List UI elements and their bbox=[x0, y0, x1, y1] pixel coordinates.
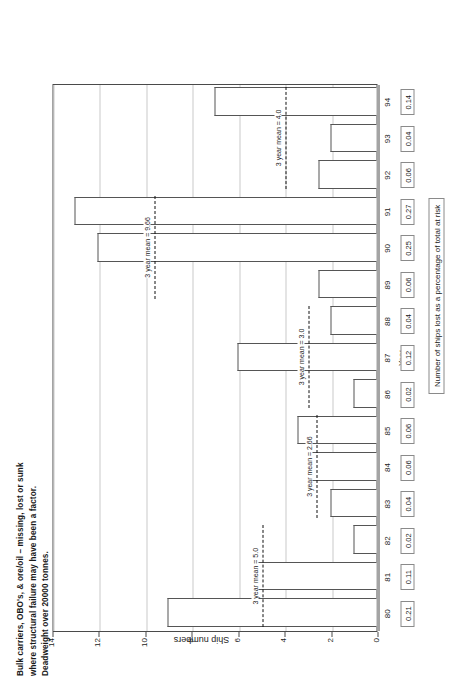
y-tick-12: 12 bbox=[92, 638, 101, 668]
chart-title-line-2: where structural failure may have been a… bbox=[27, 346, 40, 676]
x-tick-85: 85 bbox=[382, 416, 391, 446]
percent-box-85: 0.06 bbox=[400, 418, 414, 444]
x-tick-90: 90 bbox=[382, 233, 391, 263]
y-tick-mark bbox=[98, 632, 99, 637]
y-tick-mark bbox=[52, 632, 53, 637]
x-tick-81: 81 bbox=[382, 562, 391, 592]
bar-83 bbox=[330, 489, 376, 517]
bar-81 bbox=[253, 562, 376, 590]
gridline bbox=[99, 85, 100, 631]
x-tick-80: 80 bbox=[382, 599, 391, 629]
x-tick-88: 88 bbox=[382, 306, 391, 336]
mean-marker-4 bbox=[285, 87, 286, 189]
y-tick-14: 14 bbox=[46, 638, 55, 668]
bar-80 bbox=[167, 599, 376, 627]
percent-box-88: 0.04 bbox=[400, 308, 414, 334]
bar-86 bbox=[353, 379, 376, 407]
x-tick-83: 83 bbox=[382, 489, 391, 519]
mean-marker-2 bbox=[308, 306, 309, 408]
y-tick-mark bbox=[377, 632, 378, 637]
mean-label-3: 3 year mean = 9.66 bbox=[143, 216, 150, 279]
chart-canvas: Bulk carriers, OBO's, & ore/oil – missin… bbox=[0, 0, 465, 694]
percent-box-83: 0.04 bbox=[400, 491, 414, 517]
percent-box-93: 0.04 bbox=[400, 126, 414, 152]
y-tick-4: 4 bbox=[278, 638, 287, 668]
plot-area: 3 year mean = 5.03 year mean = 2.663 yea… bbox=[52, 84, 377, 632]
percent-box-92: 0.06 bbox=[400, 162, 414, 188]
bar-88 bbox=[330, 306, 376, 334]
x-tick-86: 86 bbox=[382, 380, 391, 410]
mean-label-2: 3 year mean = 3.0 bbox=[297, 328, 304, 387]
percent-box-89: 0.06 bbox=[400, 272, 414, 298]
percent-box-86: 0.02 bbox=[400, 382, 414, 408]
y-tick-2: 2 bbox=[325, 638, 334, 668]
percent-box-84: 0.06 bbox=[400, 455, 414, 481]
x-tick-92: 92 bbox=[382, 160, 391, 190]
bar-92 bbox=[318, 160, 376, 188]
bar-91 bbox=[74, 197, 376, 225]
mean-marker-1 bbox=[316, 415, 317, 517]
percent-box-87: 0.12 bbox=[400, 345, 414, 371]
x-tick-84: 84 bbox=[382, 453, 391, 483]
y-tick-mark bbox=[284, 632, 285, 637]
bar-82 bbox=[353, 525, 376, 553]
gridline bbox=[146, 85, 147, 631]
mean-marker-0 bbox=[262, 525, 263, 627]
y-axis-label: Ship numbers bbox=[141, 635, 261, 645]
bar-94 bbox=[214, 87, 377, 115]
x-tick-87: 87 bbox=[382, 343, 391, 373]
legend-caption: Number of ships lost as a percentage of … bbox=[428, 198, 444, 394]
y-tick-mark bbox=[331, 632, 332, 637]
gridline bbox=[192, 85, 193, 631]
mean-marker-3 bbox=[154, 196, 155, 298]
percent-box-94: 0.14 bbox=[400, 89, 414, 115]
bar-93 bbox=[330, 124, 376, 152]
axis-baseline bbox=[378, 85, 379, 631]
chart-title-line-1: Bulk carriers, OBO's, & ore/oil – missin… bbox=[14, 346, 27, 676]
x-tick-94: 94 bbox=[382, 87, 391, 117]
chart-title: Bulk carriers, OBO's, & ore/oil – missin… bbox=[14, 346, 52, 676]
bar-90 bbox=[97, 233, 376, 261]
mean-label-1: 3 year mean = 2.66 bbox=[305, 435, 312, 498]
x-tick-82: 82 bbox=[382, 526, 391, 556]
mean-label-0: 3 year mean = 5.0 bbox=[251, 547, 258, 606]
gridline bbox=[53, 85, 54, 631]
bar-87 bbox=[237, 343, 376, 371]
percent-box-90: 0.25 bbox=[400, 235, 414, 261]
x-tick-89: 89 bbox=[382, 270, 391, 300]
bar-89 bbox=[318, 270, 376, 298]
percent-box-80: 0.21 bbox=[400, 601, 414, 627]
mean-label-4: 3 year mean = 4.0 bbox=[274, 109, 281, 168]
chart-title-line-3: Deadweight over 20000 tonnes. bbox=[39, 346, 52, 676]
x-tick-93: 93 bbox=[382, 124, 391, 154]
x-tick-91: 91 bbox=[382, 197, 391, 227]
percent-box-81: 0.11 bbox=[400, 564, 414, 590]
percent-box-91: 0.27 bbox=[400, 199, 414, 225]
y-tick-0: 0 bbox=[371, 638, 380, 668]
percent-box-82: 0.02 bbox=[400, 528, 414, 554]
